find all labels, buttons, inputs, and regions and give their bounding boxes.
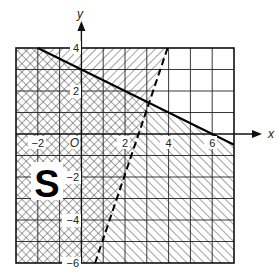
y-tick-label: −2 — [66, 171, 79, 183]
origin-label: O — [70, 136, 79, 150]
y-tick-label: 2 — [73, 85, 79, 97]
inequality-graph: −2 O 2 4 6 4 2 −2 −4 −6 x y S — [0, 0, 278, 272]
x-axis-arrow-icon — [252, 130, 262, 138]
y-axis-label: y — [76, 7, 84, 21]
x-axis-label: x — [267, 127, 275, 141]
y-tick-label: 4 — [73, 42, 79, 54]
x-tick-label: 4 — [166, 137, 172, 149]
region-label-s: S — [34, 163, 59, 205]
y-tick-label: −4 — [66, 214, 79, 226]
x-tick-label: −2 — [32, 137, 45, 149]
x-tick-label: 2 — [122, 137, 128, 149]
y-tick-label: −6 — [66, 257, 79, 269]
y-axis-arrow-icon — [77, 21, 85, 31]
x-tick-label: 6 — [209, 137, 215, 149]
